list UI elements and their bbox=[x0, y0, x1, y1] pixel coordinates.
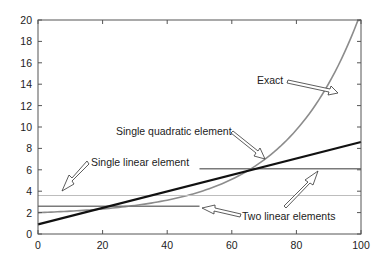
annotation-quadratic-label: Single quadratic element bbox=[116, 125, 232, 137]
y-tick-label: 18 bbox=[20, 35, 32, 47]
arrow-icon bbox=[284, 171, 318, 208]
y-tick-label: 0 bbox=[26, 228, 32, 240]
arrow-icon bbox=[202, 205, 241, 217]
arrow-icon bbox=[287, 80, 338, 95]
arrow-icon bbox=[62, 161, 89, 191]
y-tick-label: 12 bbox=[20, 100, 32, 112]
y-tick-label: 16 bbox=[20, 57, 32, 69]
x-tick-label: 20 bbox=[97, 239, 109, 251]
y-tick-label: 8 bbox=[26, 142, 32, 154]
y-tick-label: 6 bbox=[26, 164, 32, 176]
x-tick-label: 80 bbox=[291, 239, 303, 251]
annotation-two-linear-label: Two linear elements bbox=[242, 210, 335, 222]
x-tick-label: 0 bbox=[35, 239, 41, 251]
y-tick-label: 14 bbox=[20, 78, 32, 90]
x-tick-label: 60 bbox=[226, 239, 238, 251]
annotation-linear-label: Single linear element bbox=[91, 156, 189, 168]
y-tick-label: 10 bbox=[20, 121, 32, 133]
arrow-icon bbox=[231, 131, 265, 159]
annotation-exact-label: Exact bbox=[257, 74, 283, 86]
y-tick-label: 2 bbox=[26, 207, 32, 219]
x-tick-label: 100 bbox=[352, 239, 370, 251]
y-tick-label: 20 bbox=[20, 14, 32, 26]
annotation-single-quadratic: Single quadratic element bbox=[116, 125, 265, 159]
annotation-single-linear: Single linear element bbox=[62, 156, 189, 191]
annotation-exact: Exact bbox=[257, 74, 338, 95]
plot-lines bbox=[38, 20, 361, 224]
chart: 02040608010002468101214161820 Exact Sing… bbox=[0, 0, 383, 269]
annotation-two-linear: Two linear elements bbox=[202, 171, 335, 222]
x-tick-label: 40 bbox=[161, 239, 173, 251]
y-tick-label: 4 bbox=[26, 185, 32, 197]
